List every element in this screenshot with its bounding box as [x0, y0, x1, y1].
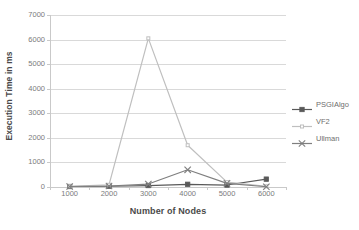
series-vf2: [68, 37, 268, 188]
x-axis-tick-labels: 100020003000400050006000: [50, 190, 286, 204]
series-plot: [50, 15, 286, 187]
plot-area: [50, 15, 286, 187]
data-point-marker: [301, 125, 304, 128]
x-axis-title: Number of Nodes: [50, 206, 286, 216]
x-tick-mark: [286, 187, 287, 190]
data-point-marker: [264, 177, 268, 181]
y-axis-title-label: Execution Time in ms: [4, 51, 14, 140]
data-point-marker: [147, 37, 150, 40]
legend-label: Ullman: [316, 135, 339, 143]
line-chart: Execution Time in ms 0100020003000400050…: [0, 0, 359, 230]
legend-item-psgialgo[interactable]: PSGIAlgo: [292, 96, 358, 113]
x-tick-label: 1000: [61, 190, 78, 198]
x-tick-label: 3000: [140, 190, 157, 198]
x-tick-label: 5000: [219, 190, 236, 198]
y-tick-label: 4000: [28, 85, 45, 93]
x-tick-label: 6000: [258, 190, 275, 198]
series-ullman: [66, 167, 269, 190]
legend-marker-icon: [292, 100, 312, 109]
y-axis-title: Execution Time in ms: [0, 0, 18, 192]
data-point-marker: [185, 182, 189, 186]
data-point-marker: [300, 107, 304, 111]
legend-label: VF2: [316, 118, 330, 126]
data-point-marker: [186, 144, 189, 147]
x-tick-label: 4000: [179, 190, 196, 198]
legend-marker-icon: [292, 117, 312, 126]
series-line: [70, 170, 267, 187]
legend-marker-icon: [292, 134, 312, 143]
y-tick-label: 7000: [28, 11, 45, 19]
data-point-marker: [184, 167, 190, 173]
legend-item-ullman[interactable]: Ullman: [292, 130, 358, 147]
x-tick-label: 2000: [101, 190, 118, 198]
series-line: [70, 38, 267, 186]
legend-item-vf2[interactable]: VF2: [292, 113, 358, 130]
y-axis-tick-labels: 01000200030004000500060007000: [18, 15, 48, 187]
chart-legend: PSGIAlgoVF2Ullman: [292, 96, 358, 147]
y-tick-label: 6000: [28, 36, 45, 44]
legend-label: PSGIAlgo: [316, 101, 349, 109]
y-tick-label: 1000: [28, 159, 45, 167]
y-tick-label: 2000: [28, 134, 45, 142]
y-tick-label: 3000: [28, 110, 45, 118]
y-tick-label: 5000: [28, 60, 45, 68]
y-tick-label: 0: [41, 183, 45, 191]
